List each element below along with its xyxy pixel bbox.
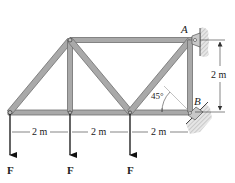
label-point-a: A [181,24,188,35]
label-span-3: 2 m [150,127,167,137]
label-force-1: F [7,165,14,176]
pin-node-top-left [68,38,72,42]
label-height-dimension: 2 m [210,70,227,80]
pin-node-2 [68,111,71,114]
label-point-b: B [194,96,201,107]
member-diagonal-left [8,39,73,114]
loads [10,114,130,155]
pin-node-1 [8,111,12,115]
pin-node-3 [128,111,131,114]
member-bottom-chord [8,110,192,115]
truss-members [8,38,193,116]
label-span-2: 2 m [90,127,107,137]
pin-bracket-a [192,33,200,47]
member-diagonal-center-left [68,39,133,114]
label-angle: 45° [151,92,164,101]
label-force-3: F [127,165,134,176]
angle-indicator [162,86,190,112]
label-force-2: F [67,165,74,176]
member-diagonal-center-right [128,39,193,114]
wall-support-a [200,27,209,56]
member-vertical-right [188,40,193,112]
member-vertical-middle [68,40,73,112]
member-top-chord [70,38,192,43]
truss-diagram [0,0,235,183]
label-span-1: 2 m [31,127,48,137]
